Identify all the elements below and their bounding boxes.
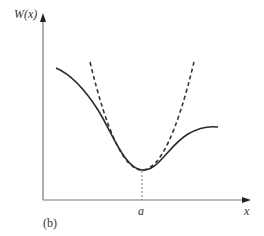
x-axis-arrow-icon (242, 197, 251, 203)
figure: W(x) x a (b) (0, 0, 264, 236)
plot-canvas (0, 0, 264, 236)
y-axis-label: W(x) (14, 7, 37, 22)
y-axis-arrow-icon (40, 13, 46, 22)
x-axis-label: x (244, 204, 249, 219)
marker-label-a: a (138, 204, 144, 219)
panel-label: (b) (43, 216, 57, 231)
harmonic-approximation-curve (90, 62, 194, 170)
potential-curve (56, 68, 218, 170)
